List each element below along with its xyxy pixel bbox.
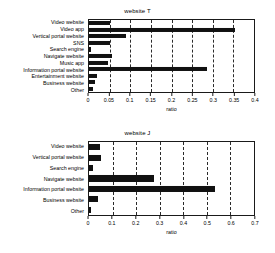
x-tick-label: 0 xyxy=(87,96,90,104)
y-tick-label: Search engine xyxy=(2,162,86,173)
y-tick-label: Navigate website xyxy=(2,173,86,184)
x-tick: 0.05 xyxy=(104,93,114,104)
bar-series-bottom xyxy=(89,142,254,215)
x-tick-label: 0.3 xyxy=(156,219,163,227)
x-tick-label: 0.1 xyxy=(126,96,133,104)
bar xyxy=(89,207,91,213)
x-tick: 0 xyxy=(87,216,90,227)
y-tick-label: Other xyxy=(2,86,86,93)
bar xyxy=(89,144,100,150)
bar xyxy=(89,28,235,32)
y-tick-label: Music app xyxy=(2,59,86,66)
bar-series-top xyxy=(89,20,254,92)
x-tick: 0.3 xyxy=(156,216,163,227)
x-tick: 0.4 xyxy=(180,216,187,227)
bar-row xyxy=(89,173,254,183)
x-axis-label-bottom: ratio xyxy=(88,229,255,236)
x-tick: 0.25 xyxy=(187,93,197,104)
figure-two-bar-charts: website T Video websiteVideo appVertical… xyxy=(0,0,275,253)
x-axis-ticks-top: 00.050.10.150.20.250.30.350.4 xyxy=(88,93,255,105)
y-tick-label: Video website xyxy=(2,141,86,152)
y-axis-category-labels-bottom: Video websiteVertical portal websiteSear… xyxy=(2,141,86,216)
bar xyxy=(89,175,154,181)
bar xyxy=(89,34,126,38)
bar xyxy=(89,80,95,84)
y-tick-label: Vertical portal website xyxy=(2,152,86,163)
chart-panel-website-j: website J Video websiteVertical portal w… xyxy=(0,126,275,253)
x-tick-label: 0.2 xyxy=(168,96,175,104)
x-tick: 0.3 xyxy=(210,93,217,104)
x-tick: 0.6 xyxy=(227,216,234,227)
chart-title-bottom: website J xyxy=(0,129,275,137)
x-tick: 0.5 xyxy=(204,216,211,227)
bar-row xyxy=(89,205,254,215)
x-tick-label: 0 xyxy=(87,219,90,227)
x-tick-label: 0.4 xyxy=(180,219,187,227)
x-tick-label: 0.4 xyxy=(251,96,258,104)
bar xyxy=(89,54,112,58)
plot-area-top xyxy=(88,19,255,93)
x-tick: 0.1 xyxy=(108,216,115,227)
bar-row xyxy=(89,184,254,194)
bar-row xyxy=(89,163,254,173)
x-tick-label: 0.3 xyxy=(210,96,217,104)
chart-title-top: website T xyxy=(0,7,275,15)
bar xyxy=(89,47,91,51)
x-tick: 0.4 xyxy=(251,93,258,104)
x-axis-label-top: ratio xyxy=(88,106,255,113)
bar xyxy=(89,41,110,45)
x-tick: 0.15 xyxy=(145,93,155,104)
x-tick: 0.1 xyxy=(126,93,133,104)
bar-row xyxy=(89,152,254,162)
x-tick: 0 xyxy=(87,93,90,104)
x-tick: 0.2 xyxy=(168,93,175,104)
chart-panel-website-t: website T Video websiteVideo appVertical… xyxy=(0,0,275,126)
y-tick-label: Information portal website xyxy=(2,66,86,73)
y-tick-label: Video website xyxy=(2,19,86,26)
x-tick: 0.7 xyxy=(251,216,258,227)
bar xyxy=(89,61,108,65)
y-tick-label: Business website xyxy=(2,80,86,87)
x-tick-label: 0.5 xyxy=(204,219,211,227)
x-axis-ticks-bottom: 00.10.20.30.40.50.60.7 xyxy=(88,216,255,228)
y-tick-label: Information portal website xyxy=(2,184,86,195)
y-tick-label: Entertainment website xyxy=(2,73,86,80)
y-tick-label: Business website xyxy=(2,195,86,206)
plot-area-bottom xyxy=(88,141,255,216)
x-tick-label: 0.35 xyxy=(229,96,239,104)
x-tick-label: 0.1 xyxy=(108,219,115,227)
bar xyxy=(89,186,215,192)
bar-row xyxy=(89,85,254,92)
bar xyxy=(89,74,97,78)
x-tick-label: 0.05 xyxy=(104,96,114,104)
x-tick-label: 0.6 xyxy=(227,219,234,227)
y-axis-category-labels-top: Video websiteVideo appVertical portal we… xyxy=(2,19,86,93)
bar xyxy=(89,21,110,25)
bar xyxy=(89,196,98,202)
x-tick-label: 0.15 xyxy=(145,96,155,104)
x-tick-label: 0.25 xyxy=(187,96,197,104)
bar xyxy=(89,87,93,91)
y-tick-label: Search engine xyxy=(2,46,86,53)
y-tick-label: Vertical portal website xyxy=(2,32,86,39)
bar xyxy=(89,155,101,161)
x-tick-label: 0.2 xyxy=(132,219,139,227)
y-tick-label: SNS xyxy=(2,39,86,46)
x-tick: 0.2 xyxy=(132,216,139,227)
x-tick-label: 0.7 xyxy=(251,219,258,227)
bar-row xyxy=(89,194,254,204)
bar xyxy=(89,165,93,171)
y-tick-label: Other xyxy=(2,205,86,216)
bar xyxy=(89,67,207,71)
x-tick: 0.35 xyxy=(229,93,239,104)
y-tick-label: Video app xyxy=(2,26,86,33)
y-tick-label: Navigate website xyxy=(2,53,86,60)
bar-row xyxy=(89,142,254,152)
